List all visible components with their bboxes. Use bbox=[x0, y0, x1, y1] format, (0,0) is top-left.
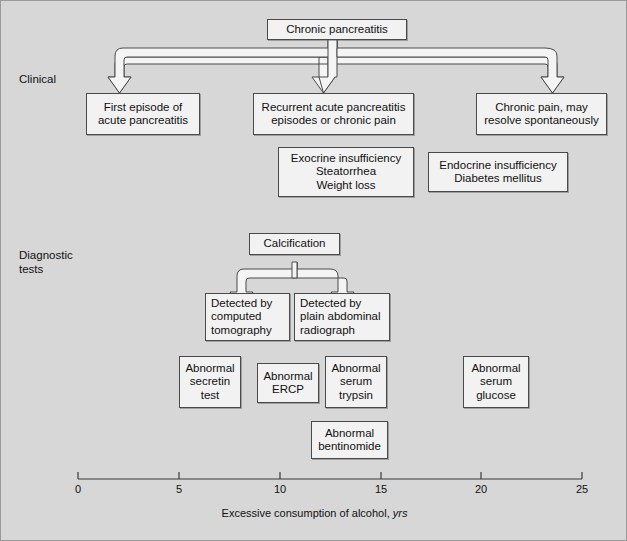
node-detected-xray[interactable]: Detected by plain abdominal radiograph bbox=[294, 293, 390, 341]
node-abnormal-secretin-test[interactable]: Abnormal secretin test bbox=[179, 356, 241, 408]
node-line: secretin bbox=[190, 375, 230, 389]
node-line: computed bbox=[211, 310, 262, 324]
node-line: resolve spontaneously bbox=[484, 114, 598, 128]
row-label-clinical: Clinical bbox=[19, 72, 56, 86]
node-line: serum bbox=[480, 375, 512, 389]
axis-tick-label-0: 0 bbox=[75, 483, 81, 495]
node-recurrent-acute[interactable]: Recurrent acute pancreatitis episodes or… bbox=[253, 93, 414, 135]
node-chronic-pancreatitis[interactable]: Chronic pancreatitis bbox=[267, 19, 407, 40]
node-line: Abnormal bbox=[263, 370, 312, 384]
node-line: Exocrine insufficiency bbox=[291, 152, 401, 166]
node-line: radiograph bbox=[300, 324, 355, 338]
node-line: bentinomide bbox=[318, 440, 381, 454]
axis-tick-label-5: 5 bbox=[176, 483, 182, 495]
node-chronic-pain[interactable]: Chronic pain, may resolve spontaneously bbox=[476, 93, 607, 135]
node-abnormal-bentinomide[interactable]: Abnormal bentinomide bbox=[311, 421, 388, 459]
node-first-episode[interactable]: First episode of acute pancreatitis bbox=[86, 93, 200, 135]
axis-tick-label-20: 20 bbox=[475, 483, 487, 495]
arrow-calcification-stem bbox=[292, 262, 297, 278]
axis-tick-label-25: 25 bbox=[576, 483, 588, 495]
connector-overlay bbox=[1, 1, 627, 541]
axis-tick-label-10: 10 bbox=[274, 483, 286, 495]
node-line: plain abdominal bbox=[300, 310, 381, 324]
node-detected-ct[interactable]: Detected by computed tomography bbox=[205, 293, 290, 341]
node-line: Abnormal bbox=[331, 362, 380, 376]
node-line: Steatorrhea bbox=[316, 165, 376, 179]
node-line: First episode of bbox=[104, 101, 183, 115]
node-line: Chronic pain, may bbox=[495, 101, 588, 115]
node-line: serum bbox=[340, 375, 372, 389]
node-line: Endocrine insufficiency bbox=[439, 159, 556, 173]
arrow-root-left bbox=[108, 39, 337, 93]
node-line: Calcification bbox=[264, 237, 326, 251]
node-line: Detected by bbox=[211, 297, 272, 311]
node-line: episodes or chronic pain bbox=[271, 114, 396, 128]
node-line: Diabetes mellitus bbox=[454, 172, 542, 186]
row-label-diagnostic: Diagnostic tests bbox=[19, 248, 73, 276]
axis-title-units: yrs bbox=[393, 507, 408, 519]
node-line: acute pancreatitis bbox=[98, 114, 188, 128]
node-line: ERCP bbox=[272, 383, 304, 397]
node-exocrine-insufficiency[interactable]: Exocrine insufficiency Steatorrhea Weigh… bbox=[278, 147, 414, 197]
node-abnormal-ercp[interactable]: Abnormal ERCP bbox=[257, 363, 319, 403]
node-endocrine-insufficiency[interactable]: Endocrine insufficiency Diabetes mellitu… bbox=[428, 152, 568, 192]
figure-panel: Clinical Diagnostic tests Chronic pancre… bbox=[0, 0, 627, 541]
node-line: glucose bbox=[476, 389, 516, 403]
node-line: trypsin bbox=[339, 389, 373, 403]
node-abnormal-serum-glucose[interactable]: Abnormal serum glucose bbox=[463, 356, 529, 408]
node-line: Abnormal bbox=[471, 362, 520, 376]
node-line: Recurrent acute pancreatitis bbox=[262, 101, 406, 115]
node-line: Weight loss bbox=[316, 179, 375, 193]
node-line: Abnormal bbox=[185, 362, 234, 376]
node-calcification[interactable]: Calcification bbox=[249, 233, 340, 255]
arrow-root-middle bbox=[319, 39, 337, 93]
node-line: test bbox=[201, 389, 220, 403]
node-line: Detected by bbox=[300, 297, 361, 311]
node-abnormal-serum-trypsin[interactable]: Abnormal serum trypsin bbox=[325, 356, 387, 408]
arrow-root-to-clinical bbox=[108, 39, 564, 93]
node-line: Abnormal bbox=[325, 427, 374, 441]
axis-tick-label-15: 15 bbox=[375, 483, 387, 495]
axis-title: Excessive consumption of alcohol, yrs bbox=[1, 507, 627, 519]
node-line: tomography bbox=[211, 324, 272, 338]
axis-title-main: Excessive consumption of alcohol, bbox=[222, 507, 390, 519]
node-line: Chronic pancreatitis bbox=[286, 23, 388, 37]
arrow-root-right bbox=[337, 48, 564, 93]
